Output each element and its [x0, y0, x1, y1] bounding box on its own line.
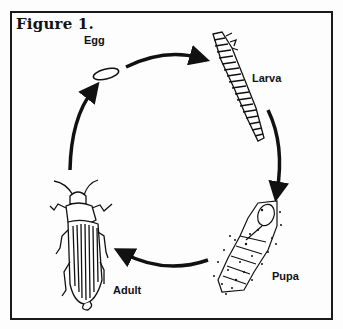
- life-cycle-drawing: [0, 0, 343, 329]
- arrow-egg-to-larva: [126, 55, 200, 67]
- arrow-pupa-to-adult: [123, 253, 208, 266]
- arrow-adult-to-egg: [70, 90, 93, 170]
- pupa-illustration: [213, 201, 282, 295]
- larva-illustration: [213, 32, 264, 141]
- egg-illustration: [92, 66, 120, 82]
- adult-beetle-illustration: [50, 180, 112, 310]
- arrow-larva-to-pupa: [268, 110, 280, 192]
- figure-canvas: Figure 1. Egg Larva Pupa Adult: [0, 0, 343, 329]
